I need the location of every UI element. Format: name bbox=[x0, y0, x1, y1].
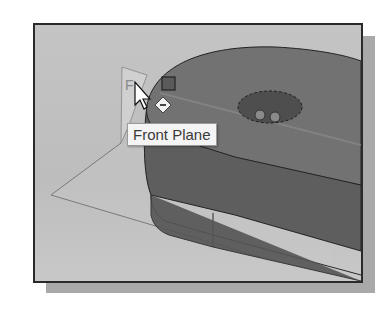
graphics-viewport[interactable]: F Front Plane bbox=[33, 23, 363, 283]
tooltip-front-plane: Front Plane bbox=[127, 123, 217, 146]
model-scene: F bbox=[35, 25, 361, 281]
recess-feature bbox=[238, 91, 302, 123]
selection-handle-square[interactable] bbox=[162, 77, 175, 90]
svg-text:F: F bbox=[125, 77, 134, 93]
